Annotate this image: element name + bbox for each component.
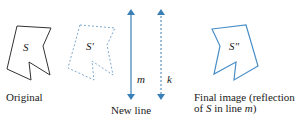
- caption-text: ): [253, 102, 257, 114]
- label-s-prime: S': [86, 41, 94, 52]
- final-shape-s-double-prime: [212, 25, 258, 80]
- caption-original: Original: [6, 92, 43, 103]
- label-s: S: [23, 42, 29, 53]
- label-k: k: [167, 74, 172, 85]
- label-m: m: [137, 74, 145, 85]
- caption-final-line2: of S in line m): [194, 103, 256, 114]
- caption-text: of: [194, 102, 206, 114]
- intermediate-shape-s-prime: [68, 25, 115, 80]
- caption-text-m: m: [245, 102, 253, 114]
- label-s-double-prime: S": [229, 41, 239, 52]
- caption-text: in line: [211, 102, 244, 114]
- original-shape-s: [7, 26, 51, 80]
- caption-new-line: New line: [111, 105, 151, 116]
